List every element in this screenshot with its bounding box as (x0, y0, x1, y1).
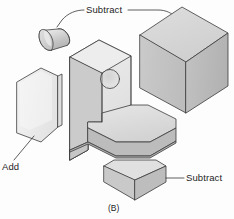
subtract-top-label: Subtract (86, 4, 122, 15)
bracket-dimple-hole (101, 70, 120, 89)
plate-side-face (58, 74, 62, 127)
subtract-bottom-label: Subtract (186, 172, 222, 183)
figure-caption: (B) (108, 203, 120, 213)
figure-container: Subtract Add (0, 0, 234, 219)
add-label: Add (2, 161, 19, 172)
solid-modeling-diagram: Subtract Add (0, 0, 234, 219)
